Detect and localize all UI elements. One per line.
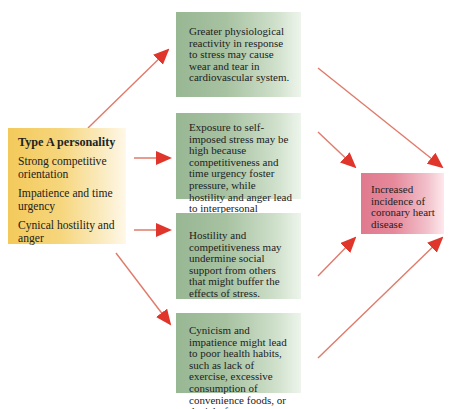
pathway-social-support: Hostility and competitiveness may underm…	[176, 213, 301, 299]
pathway-health-habits: Cynicism and impatience might lead to po…	[176, 313, 301, 393]
arrow-source-to-pathway-1	[88, 50, 168, 128]
type-a-title: Type A personality	[18, 135, 118, 149]
trait-hostility: Cynical hostility and anger	[18, 220, 118, 245]
pathway-self-imposed-stress: Exposure to self-imposed stress may be h…	[176, 113, 301, 199]
arrow-pathway-1-to-outcome	[318, 68, 442, 167]
trait-competitive: Strong competitive orientation	[18, 156, 118, 181]
arrow-pathway-3-to-outcome	[318, 238, 355, 276]
type-a-personality-box: Type A personality Strong competitive or…	[8, 128, 126, 244]
outcome-coronary-heart-disease: Increased incidence of coronary heart di…	[361, 173, 444, 234]
pathway-physiological-reactivity: Greater physiological reactivity in resp…	[176, 12, 301, 97]
arrow-pathway-2-to-outcome	[318, 132, 355, 167]
arrow-source-to-pathway-4	[116, 253, 170, 324]
trait-impatience: Impatience and time urgency	[18, 188, 118, 213]
